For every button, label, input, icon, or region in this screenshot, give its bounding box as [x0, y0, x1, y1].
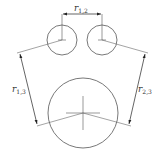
distance-diagram: r1,2 r1,3 r2,3	[0, 0, 160, 158]
dimension-r12: r1,2	[63, 3, 101, 14]
circle-1	[47, 14, 77, 55]
circle-2	[87, 14, 117, 55]
diagram-canvas: r1,2 r1,3 r2,3	[0, 0, 160, 158]
label-r12: r1,2	[74, 3, 88, 14]
label-r13: r1,3	[12, 84, 26, 95]
label-r23: r2,3	[138, 84, 152, 95]
